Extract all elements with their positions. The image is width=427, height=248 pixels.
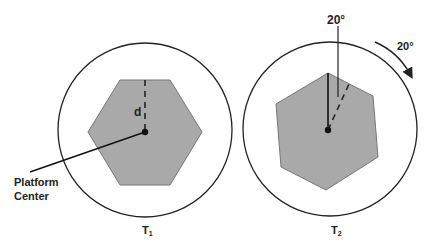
distance-label: d [134,105,141,119]
panel-label-t2-sub: 2 [338,230,342,237]
callout-label-line1: Platform [14,176,59,188]
panel-label-t1: T1 [142,224,153,237]
panel-label-t1-sub: 1 [149,230,153,237]
panel-label-t2: T2 [331,224,342,237]
rotation-label: 20° [397,40,414,52]
platform-center-dot-t2 [325,127,331,133]
panel-t2: 20° 20° T2 [243,13,417,237]
panel-t1: d Platform Center T1 [14,43,232,237]
angle-label: 20° [327,13,345,27]
callout-label-line2: Center [14,190,50,202]
platform-rotation-diagram: d Platform Center T1 20° 20° T2 [0,0,427,248]
